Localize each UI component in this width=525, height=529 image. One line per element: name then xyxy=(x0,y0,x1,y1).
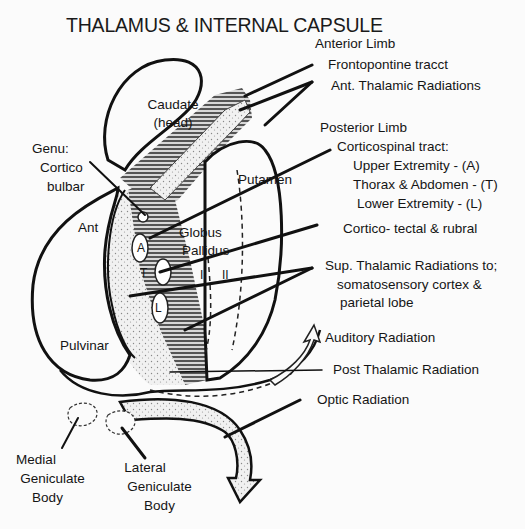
label-lateral-body: Body xyxy=(137,498,182,514)
pointer-ant-thalamic-1 xyxy=(240,82,312,110)
label-parietal-lobe: parietal lobe xyxy=(340,295,414,311)
label-ant-thalamic: Ant. Thalamic Radiations xyxy=(331,78,481,94)
label-cortico-tectal: Cortico- tectal & rubral xyxy=(343,221,477,237)
diagram-canvas: THALAMUS & INTERNAL CAPSULE Anterior Lim… xyxy=(0,0,525,529)
label-upper-extremity: Upper Extremity - (A) xyxy=(353,158,480,174)
label-tract-t: T xyxy=(140,265,147,281)
pointer-ant-thalamic-2 xyxy=(265,82,312,125)
label-bulbar: bulbar xyxy=(47,179,85,195)
label-zone-ii: II xyxy=(222,267,229,283)
auditory-arrow xyxy=(270,325,320,385)
label-caudate: Caudate xyxy=(146,97,200,113)
label-thorax-abdomen: Thorax & Abdomen - (T) xyxy=(353,177,498,193)
label-frontopontine: Frontopontine tracct xyxy=(328,57,448,73)
diagram-title: THALAMUS & INTERNAL CAPSULE xyxy=(66,14,383,37)
label-optic-radiation: Optic Radiation xyxy=(317,392,409,408)
label-lateral: Lateral xyxy=(120,460,170,476)
pointer-optic xyxy=(225,400,300,437)
lateral-geniculate-body xyxy=(106,411,135,434)
label-tract-a: A xyxy=(137,240,145,256)
label-corticospinal: Corticospinal tract: xyxy=(337,139,449,155)
label-medial: Medial xyxy=(16,452,56,468)
label-globus: Globus xyxy=(179,225,222,241)
label-pallidus: Pallidus xyxy=(182,243,229,259)
pointer-lateral-geniculate xyxy=(122,428,145,458)
label-medial-body: Body xyxy=(25,490,70,506)
pointer-medial-geniculate xyxy=(62,418,78,448)
label-cortico: Cortico xyxy=(40,160,83,176)
medial-geniculate-body xyxy=(68,403,97,426)
label-post-thalamic: Post Thalamic Radiation xyxy=(333,362,479,378)
label-lateral-geniculate: Geniculate xyxy=(122,479,197,495)
label-putamen: Putamen xyxy=(238,172,292,188)
label-ant: Ant xyxy=(78,220,98,236)
label-zone-i: I xyxy=(200,267,203,283)
label-posterior-limb: Posterior Limb xyxy=(320,120,407,136)
label-lower-extremity: Lower Extremity - (L) xyxy=(357,196,482,212)
label-pulvinar: Pulvinar xyxy=(60,338,109,354)
label-auditory-radiation: Auditory Radiation xyxy=(325,330,435,346)
label-tract-l: L xyxy=(155,300,162,316)
label-sup-thalamic: Sup. Thalamic Radiations to; xyxy=(325,258,497,274)
label-genu: Genu: xyxy=(32,141,69,157)
label-medial-geniculate: Geniculate xyxy=(15,471,90,487)
label-anterior-limb: Anterior Limb xyxy=(315,36,395,52)
label-caudate-head: (head) xyxy=(148,115,198,131)
label-somatosensory: somatosensory cortex & xyxy=(337,277,482,293)
